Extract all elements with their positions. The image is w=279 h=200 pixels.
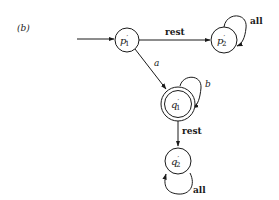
edge-label-q1-loop: b <box>205 79 211 89</box>
self-loop-q2 <box>165 173 192 194</box>
state-p2: p′2 <box>211 27 237 53</box>
edge-label-q2-loop: all <box>193 185 206 195</box>
state-p1: p′1 <box>115 28 139 52</box>
panel-label: (b) <box>17 23 30 33</box>
edge-p1-q1 <box>135 49 166 89</box>
state-q2: q′2 <box>165 148 191 174</box>
edge-label-p1-p2: rest <box>165 27 186 37</box>
edge-label-q1-q2: rest <box>182 126 203 136</box>
edge-label-p1-q1: a <box>154 58 159 68</box>
automaton-diagram: (b) rest all a b rest all p′1 p′2 q′1 q′… <box>0 0 279 200</box>
edge-label-p2-loop: all <box>250 16 263 26</box>
state-q1-accepting: q′1 <box>161 87 195 121</box>
